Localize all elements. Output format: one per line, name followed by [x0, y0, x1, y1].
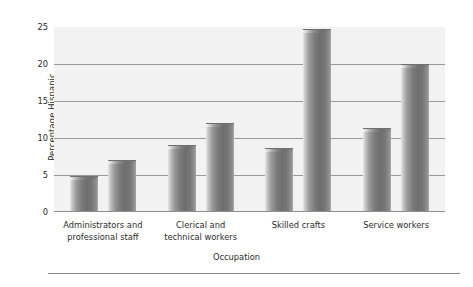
bar: [303, 29, 331, 212]
bar: [206, 123, 234, 212]
plot-area: [54, 27, 445, 212]
bar: [108, 160, 136, 212]
x-axis-tick-label: Clerical andtechnical workers: [152, 220, 250, 243]
x-axis-tick-label-line: Clerical and: [152, 220, 250, 232]
bar: [401, 64, 429, 212]
gridline: [54, 64, 445, 65]
x-axis-tick-label-line: technical workers: [152, 232, 250, 244]
x-axis-tick-label-line: Administrators and: [54, 220, 152, 232]
y-axis-tick-label: 25: [4, 22, 48, 32]
x-axis-tick-label: Service workers: [347, 220, 445, 232]
x-axis-tick-label: Skilled crafts: [250, 220, 348, 232]
y-axis-tick-label: 5: [4, 170, 48, 180]
bar: [70, 176, 98, 212]
y-axis-tick-label: 20: [4, 59, 48, 69]
x-axis-title: Occupation: [0, 252, 473, 262]
x-axis-tick-label-line: Service workers: [347, 220, 445, 232]
y-axis-tick-label: 15: [4, 96, 48, 106]
bar: [265, 148, 293, 212]
bottom-divider: [48, 273, 460, 274]
bar-chart-figure: Percentage Hispanic 0510152025 Administr…: [0, 0, 473, 287]
y-axis-tick-label: 10: [4, 133, 48, 143]
bar: [168, 145, 196, 212]
x-axis-tick-label: Administrators andprofessional staff: [54, 220, 152, 243]
bar: [363, 128, 391, 212]
x-axis-baseline: [54, 211, 445, 212]
y-axis-tick-label: 0: [4, 207, 48, 217]
y-axis-tick-labels: 0510152025: [0, 0, 48, 287]
x-axis-tick-label-line: professional staff: [54, 232, 152, 244]
gridline: [54, 101, 445, 102]
x-axis-tick-label-line: Skilled crafts: [250, 220, 348, 232]
